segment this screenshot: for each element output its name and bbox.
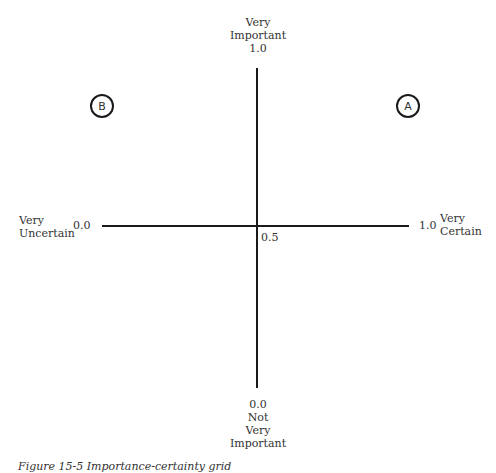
x-left-value: 0.0 [73, 219, 91, 232]
marker-a: A [396, 94, 420, 118]
y-top-word-2: Important [213, 29, 303, 42]
center-value: 0.5 [261, 231, 279, 244]
x-left-word-1: Very [19, 214, 75, 227]
x-axis-left-label: Very Uncertain [19, 214, 75, 240]
y-top-word-1: Very [213, 16, 303, 29]
x-right-word-1: Very [440, 212, 482, 225]
y-axis-top-label: Very Important 1.0 [213, 16, 303, 55]
y-bottom-word-2: Very [213, 424, 303, 437]
x-left-word-2: Uncertain [19, 227, 75, 240]
y-bottom-value: 0.0 [213, 398, 303, 411]
figure-caption: Figure 15-5 Importance-certainty grid [18, 460, 231, 473]
y-bottom-word-1: Not [213, 411, 303, 424]
x-right-word-2: Certain [440, 225, 482, 238]
vertical-axis-importance [256, 68, 258, 388]
marker-b: B [90, 94, 114, 118]
x-right-value: 1.0 [419, 219, 437, 232]
x-axis-right-label: Very Certain [440, 212, 482, 238]
horizontal-axis-certainty [102, 225, 409, 227]
y-bottom-word-3: Important [213, 437, 303, 450]
y-axis-bottom-label: 0.0 Not Very Important [213, 398, 303, 450]
y-top-value: 1.0 [213, 42, 303, 55]
